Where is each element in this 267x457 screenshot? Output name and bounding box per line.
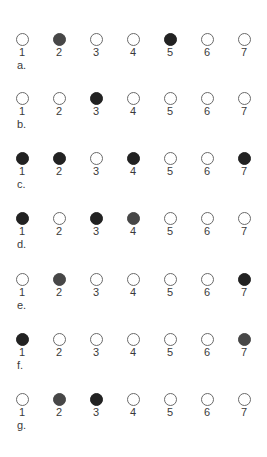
- pattern-row: 1234567d.: [0, 212, 267, 262]
- empty-circle-icon: [164, 212, 177, 225]
- row-label: e.: [17, 299, 26, 311]
- position-number: 6: [200, 46, 214, 58]
- position-number: 2: [52, 46, 66, 58]
- empty-circle-icon: [201, 152, 214, 165]
- empty-circle-icon: [164, 92, 177, 105]
- filled-circle-icon: [16, 152, 29, 165]
- empty-circle-icon: [16, 273, 29, 286]
- filled-circle-icon: [127, 152, 140, 165]
- row-label: c.: [17, 178, 26, 190]
- position-number: 3: [89, 46, 103, 58]
- empty-circle-icon: [16, 33, 29, 46]
- position-number: 5: [163, 346, 177, 358]
- position-number: 2: [52, 225, 66, 237]
- empty-circle-icon: [90, 333, 103, 346]
- position-number: 6: [200, 286, 214, 298]
- position-number: 5: [163, 165, 177, 177]
- position-number: 3: [89, 165, 103, 177]
- position-number: 2: [52, 105, 66, 117]
- empty-circle-icon: [164, 393, 177, 406]
- empty-circle-icon: [16, 393, 29, 406]
- row-label: b.: [17, 118, 26, 130]
- position-number: 3: [89, 286, 103, 298]
- empty-circle-icon: [53, 212, 66, 225]
- empty-circle-icon: [238, 393, 251, 406]
- empty-circle-icon: [127, 92, 140, 105]
- pattern-row: 1234567e.: [0, 273, 267, 323]
- empty-circle-icon: [238, 212, 251, 225]
- empty-circle-icon: [16, 92, 29, 105]
- position-number: 3: [89, 406, 103, 418]
- position-number: 2: [52, 406, 66, 418]
- empty-circle-icon: [90, 152, 103, 165]
- empty-circle-icon: [201, 212, 214, 225]
- position-number: 3: [89, 346, 103, 358]
- pattern-row: 1234567b.: [0, 92, 267, 142]
- pattern-row: 1234567c.: [0, 152, 267, 202]
- empty-circle-icon: [201, 393, 214, 406]
- position-number: 1: [15, 165, 29, 177]
- position-number: 1: [15, 46, 29, 58]
- position-number: 5: [163, 406, 177, 418]
- position-number: 7: [237, 286, 251, 298]
- empty-circle-icon: [238, 92, 251, 105]
- position-number: 5: [163, 105, 177, 117]
- position-number: 3: [89, 105, 103, 117]
- row-label: d.: [17, 238, 26, 250]
- position-number: 4: [126, 406, 140, 418]
- position-number: 5: [163, 225, 177, 237]
- position-number: 1: [15, 406, 29, 418]
- empty-circle-icon: [238, 33, 251, 46]
- position-number: 3: [89, 225, 103, 237]
- row-label: f.: [17, 359, 23, 371]
- empty-circle-icon: [164, 273, 177, 286]
- position-number: 4: [126, 346, 140, 358]
- position-number: 4: [126, 165, 140, 177]
- position-number: 5: [163, 46, 177, 58]
- filled-circle-icon: [90, 212, 103, 225]
- position-number: 7: [237, 346, 251, 358]
- filled-circle-icon: [238, 273, 251, 286]
- empty-circle-icon: [201, 33, 214, 46]
- position-number: 5: [163, 286, 177, 298]
- position-number: 4: [126, 105, 140, 117]
- empty-circle-icon: [127, 273, 140, 286]
- filled-circle-icon: [90, 393, 103, 406]
- pattern-row: 1234567g.: [0, 393, 267, 443]
- filled-circle-icon: [90, 92, 103, 105]
- row-label: a.: [17, 59, 26, 71]
- position-number: 7: [237, 165, 251, 177]
- empty-circle-icon: [53, 92, 66, 105]
- position-number: 6: [200, 406, 214, 418]
- filled-circle-icon: [53, 273, 66, 286]
- filled-circle-icon: [127, 212, 140, 225]
- position-number: 4: [126, 286, 140, 298]
- empty-circle-icon: [127, 333, 140, 346]
- position-number: 2: [52, 165, 66, 177]
- position-number: 7: [237, 105, 251, 117]
- position-number: 2: [52, 346, 66, 358]
- filled-circle-icon: [16, 212, 29, 225]
- position-number: 2: [52, 286, 66, 298]
- empty-circle-icon: [201, 273, 214, 286]
- position-number: 6: [200, 225, 214, 237]
- empty-circle-icon: [164, 333, 177, 346]
- position-number: 1: [15, 225, 29, 237]
- position-number: 7: [237, 225, 251, 237]
- row-label: g.: [17, 419, 26, 431]
- position-number: 1: [15, 346, 29, 358]
- filled-circle-icon: [164, 33, 177, 46]
- empty-circle-icon: [127, 393, 140, 406]
- position-number: 7: [237, 406, 251, 418]
- filled-circle-icon: [238, 333, 251, 346]
- position-number: 6: [200, 105, 214, 117]
- filled-circle-icon: [53, 33, 66, 46]
- empty-circle-icon: [201, 92, 214, 105]
- position-number: 6: [200, 346, 214, 358]
- empty-circle-icon: [53, 333, 66, 346]
- empty-circle-icon: [164, 152, 177, 165]
- position-number: 4: [126, 46, 140, 58]
- pattern-row: 1234567f.: [0, 333, 267, 383]
- empty-circle-icon: [201, 333, 214, 346]
- position-number: 6: [200, 165, 214, 177]
